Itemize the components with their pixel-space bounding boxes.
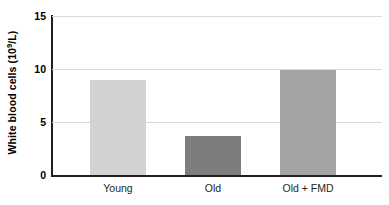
gridline-15: [52, 16, 382, 17]
y-tick-label-15: 15: [34, 10, 46, 22]
y-axis-title-tail: /L): [6, 31, 18, 44]
y-tick-label-0: 0: [40, 169, 46, 181]
y-tick-label-5: 5: [40, 116, 46, 128]
x-tick-label-young: Young: [103, 182, 132, 194]
y-axis-title-exponent: 9: [5, 44, 14, 48]
y-tick-label-10: 10: [34, 63, 46, 75]
x-tick-label-old-plus-fmd: Old + FMD: [282, 182, 333, 194]
plot-area: 15 10 5 0: [52, 16, 382, 175]
y-axis-title-base: White blood cells (10: [6, 48, 18, 155]
bar-chart: White blood cells (109/L) 15 10 5 0 Youn…: [0, 0, 389, 205]
bar-young: [90, 80, 146, 175]
bar-old: [185, 136, 241, 175]
x-tick-label-old: Old: [205, 182, 221, 194]
y-axis-title: White blood cells (109/L): [6, 13, 22, 172]
bar-old-plus-fmd: [280, 70, 336, 175]
